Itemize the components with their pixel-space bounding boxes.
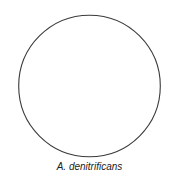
genome-diagram — [0, 0, 169, 176]
organism-caption: A. denitrificans — [0, 161, 169, 172]
circle-outline — [0, 0, 169, 176]
